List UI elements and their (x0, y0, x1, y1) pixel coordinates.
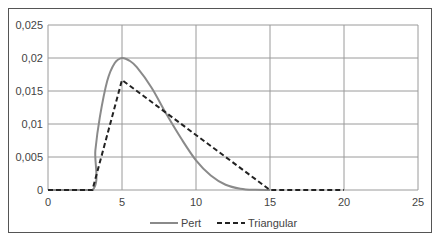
x-tick-label: 20 (338, 196, 350, 208)
y-tick-label: 0,025 (15, 19, 43, 31)
gridlines (48, 25, 418, 190)
x-tick-label: 5 (119, 196, 125, 208)
x-tick-label: 15 (264, 196, 276, 208)
legend-triangular-label: Triangular (248, 217, 297, 229)
y-tick-label: 0 (37, 184, 43, 196)
x-tick-label: 25 (412, 196, 424, 208)
x-tick-label: 0 (45, 196, 51, 208)
chart-svg: 00,0050,010,0150,020,025 0510152025 Pert… (0, 0, 440, 249)
y-tick-label: 0,01 (22, 118, 43, 130)
legend: Pert Triangular (150, 217, 297, 229)
y-tick-label: 0,02 (22, 52, 43, 64)
y-tick-label: 0,015 (15, 85, 43, 97)
legend-pert-label: Pert (181, 217, 201, 229)
y-tick-label: 0,005 (15, 151, 43, 163)
x-tick-label: 10 (190, 196, 202, 208)
x-axis-ticks: 0510152025 (45, 196, 424, 208)
y-axis-ticks: 00,0050,010,0150,020,025 (15, 19, 43, 196)
